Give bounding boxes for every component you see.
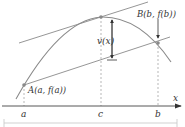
x-axis-label: x (173, 93, 178, 103)
tick-label-b: b (155, 109, 161, 119)
point-b (156, 41, 160, 45)
tick-label-a: a (21, 109, 26, 119)
vx-label: v(x) (97, 36, 115, 46)
tick-label-c: c (98, 109, 103, 119)
mvt-diagram: x a c b A(a, f(a)) B(b, f(b)) v(x) (0, 0, 185, 127)
point-c (99, 15, 103, 19)
point-b-label: B(b, f(b)) (136, 9, 176, 19)
point-a-label: A(a, f(a)) (27, 85, 66, 95)
point-a (22, 83, 26, 87)
